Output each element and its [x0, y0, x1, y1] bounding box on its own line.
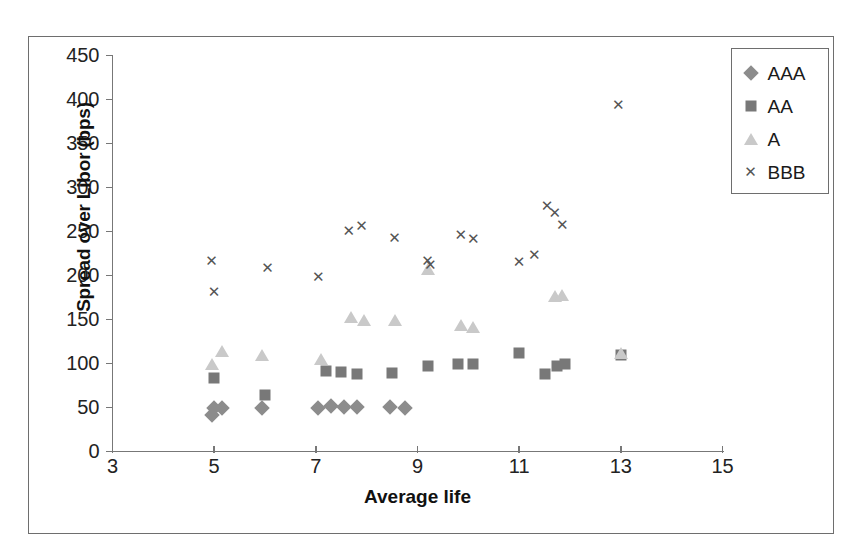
data-point-aa	[539, 369, 550, 380]
legend-label: AAA	[768, 64, 806, 83]
data-point-a	[555, 289, 569, 301]
x-tick-label: 5	[194, 456, 234, 476]
data-point-bbb: ✕	[261, 261, 275, 275]
x-tick-label: 9	[398, 456, 438, 476]
data-point-aa	[453, 358, 464, 369]
data-point-a	[314, 353, 328, 365]
data-point-bbb: ✕	[205, 254, 219, 268]
legend-label: A	[768, 130, 781, 149]
legend-item-bbb[interactable]: ✕BBB	[742, 156, 828, 189]
data-point-bbb: ✕	[611, 98, 625, 112]
data-point-a	[255, 349, 269, 361]
diamond-marker-icon	[742, 65, 760, 81]
data-point-bbb: ✕	[512, 255, 526, 269]
data-point-aaa	[255, 400, 271, 416]
square-marker-icon	[742, 98, 760, 114]
x-tick-label: 13	[601, 456, 641, 476]
triangle-marker-icon	[742, 131, 760, 147]
data-point-bbb: ✕	[555, 218, 569, 232]
x-marker-icon: ✕	[742, 164, 760, 180]
data-point-aaa	[311, 401, 327, 417]
x-axis-title: Average life	[113, 486, 723, 508]
figure-frame: 050100150200250300350400450 3579111315 S…	[28, 36, 834, 534]
y-tick	[106, 231, 113, 232]
data-point-bbb: ✕	[423, 258, 437, 272]
data-point-aaa	[349, 399, 365, 415]
data-point-aa	[422, 361, 433, 372]
plot-area: ✕✕✕✕✕✕✕✕✕✕✕✕✕✕✕✕✕	[113, 56, 723, 452]
y-tick	[106, 99, 113, 100]
data-point-bbb: ✕	[207, 285, 221, 299]
data-point-aa	[209, 372, 220, 383]
data-point-aaa	[382, 399, 398, 415]
legend-item-aa[interactable]: AA	[742, 90, 828, 123]
data-point-aa	[387, 368, 398, 379]
data-point-aa	[336, 367, 347, 378]
y-tick	[106, 363, 113, 364]
data-point-aa	[321, 366, 332, 377]
data-point-bbb: ✕	[527, 248, 541, 262]
data-point-a	[357, 314, 371, 326]
x-tick-label: 15	[703, 456, 743, 476]
legend-label: AA	[768, 97, 793, 116]
data-point-bbb: ✕	[388, 231, 402, 245]
legend: AAAAAA✕BBB	[731, 48, 829, 194]
data-point-a	[614, 347, 628, 359]
data-point-aa	[260, 390, 271, 401]
x-tick-label: 7	[296, 456, 336, 476]
y-tick	[106, 319, 113, 320]
y-tick	[106, 407, 113, 408]
data-point-bbb: ✕	[466, 232, 480, 246]
data-point-bbb: ✕	[311, 270, 325, 284]
y-tick	[106, 275, 113, 276]
y-tick	[106, 55, 113, 56]
legend-item-a[interactable]: A	[742, 123, 828, 156]
data-point-aa	[514, 347, 525, 358]
data-point-a	[466, 321, 480, 333]
data-point-a	[205, 358, 219, 370]
scatter-chart: 050100150200250300350400450 3579111315 S…	[0, 0, 860, 557]
data-point-aa	[559, 358, 570, 369]
x-tick-label: 3	[93, 456, 133, 476]
data-point-aa	[351, 369, 362, 380]
y-tick-label: 50	[56, 397, 100, 417]
data-point-bbb: ✕	[355, 219, 369, 233]
legend-item-aaa[interactable]: AAA	[742, 57, 828, 90]
y-tick	[106, 143, 113, 144]
y-axis-title: Spread over Libor (bps)	[73, 57, 95, 357]
data-point-aaa	[397, 400, 413, 416]
y-tick	[106, 187, 113, 188]
x-tick-label: 11	[499, 456, 539, 476]
legend-label: BBB	[768, 163, 806, 182]
data-point-aa	[468, 358, 479, 369]
data-point-a	[388, 314, 402, 326]
data-point-a	[215, 345, 229, 357]
figure-caption	[62, 540, 842, 557]
